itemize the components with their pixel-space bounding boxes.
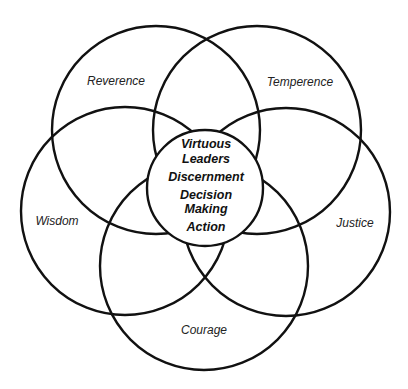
center-line-leaders: Leaders bbox=[182, 152, 230, 166]
label-wisdom: Wisdom bbox=[35, 214, 78, 228]
label-justice: Justice bbox=[335, 216, 374, 230]
center-line-decision: Decision bbox=[180, 188, 232, 202]
center-line-making: Making bbox=[184, 202, 227, 216]
label-courage: Courage bbox=[181, 323, 227, 337]
virtues-venn-diagram: Reverence Temperence Wisdom Justice Cour… bbox=[0, 0, 408, 389]
center-line-virtuous: Virtuous bbox=[181, 137, 231, 151]
center-line-discernment: Discernment bbox=[168, 170, 245, 184]
center-line-action: Action bbox=[186, 220, 226, 234]
label-reverence: Reverence bbox=[87, 74, 145, 88]
label-temperence: Temperence bbox=[267, 75, 334, 89]
